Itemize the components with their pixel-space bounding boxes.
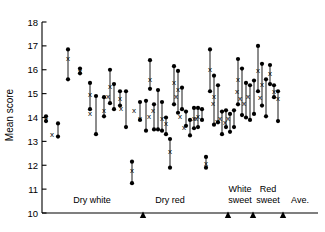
low-point [164, 132, 168, 136]
y-axis-label: Mean score [4, 88, 15, 141]
group-label-red-sweet-line1: Red [260, 184, 277, 194]
low-point [188, 133, 192, 137]
high-point [88, 81, 92, 85]
mid-x-marker: x [226, 114, 230, 123]
high-point [184, 109, 188, 113]
high-point [200, 107, 204, 111]
low-point [220, 132, 224, 136]
low-point [180, 107, 184, 111]
low-point [108, 101, 112, 105]
high-point [256, 44, 260, 48]
low-point [66, 77, 70, 81]
low-point [196, 125, 200, 129]
low-point [240, 113, 244, 117]
mid-x-marker: x [164, 119, 168, 128]
high-point [56, 121, 60, 125]
mean-score-scatter-chart: Mean score 101112131415161718 xxxxxxxxxx… [0, 0, 325, 232]
high-point [94, 94, 98, 98]
high-point [260, 62, 264, 66]
mid-x-marker: x [66, 54, 70, 63]
mid-x-marker: x [194, 114, 198, 123]
high-point [144, 99, 148, 103]
high-point [268, 63, 272, 67]
high-point [138, 100, 142, 104]
y-tick-label: 18 [27, 17, 38, 28]
low-point [276, 119, 280, 123]
y-tick-label: 16 [27, 64, 38, 75]
y-tick-label: 12 [27, 160, 38, 171]
low-point [252, 112, 256, 116]
mid-x-marker: x [44, 115, 48, 124]
high-point [156, 88, 160, 92]
low-point [192, 126, 196, 130]
high-point [112, 82, 116, 86]
mid-x-marker: x [260, 80, 264, 89]
high-point [108, 68, 112, 72]
high-point [168, 137, 172, 141]
high-point [176, 69, 180, 73]
group-label-red-sweet-line2: sweet [256, 195, 280, 205]
high-point [236, 57, 240, 61]
high-point [180, 86, 184, 90]
mid-x-marker: x [119, 104, 123, 113]
high-point [124, 89, 128, 93]
low-point [200, 118, 204, 122]
mid-x-marker: x [258, 93, 262, 102]
high-point [244, 81, 248, 85]
mid-x-marker: x [208, 65, 212, 74]
chart-container: Mean score 101112131415161718 xxxxxxxxxx… [0, 0, 325, 232]
data-item: x [164, 115, 168, 136]
mid-x-marker: x [174, 92, 178, 101]
high-point [240, 66, 244, 70]
mid-x-marker: x [218, 114, 222, 123]
low-point [172, 102, 176, 106]
mid-x-marker: x [88, 90, 92, 99]
high-point [192, 106, 196, 110]
group-label-dry-white: Dry white [73, 195, 111, 205]
y-tick-label: 14 [27, 112, 38, 123]
y-tick-label: 11 [28, 184, 38, 195]
mid-x-marker: x [204, 159, 208, 168]
high-point [118, 89, 122, 93]
high-point [66, 47, 70, 51]
mid-x-marker: x [108, 82, 112, 91]
low-point [160, 129, 164, 133]
mid-x-marker: x [78, 67, 82, 76]
low-point [130, 181, 134, 185]
y-tick-label: 17 [27, 40, 38, 51]
y-tick-label: 10 [27, 208, 38, 219]
mid-x-marker: x [50, 130, 54, 139]
high-point [248, 83, 252, 87]
high-point [216, 83, 220, 87]
high-point [196, 106, 200, 110]
mid-x-marker: x [138, 114, 142, 123]
low-point [112, 107, 116, 111]
high-point [212, 74, 216, 78]
data-item: x [268, 63, 272, 86]
high-point [160, 100, 164, 104]
low-point [152, 127, 156, 131]
group-label-white-sweet-line1: White [228, 184, 251, 194]
mid-x-marker: x [130, 166, 134, 175]
low-point [144, 129, 148, 133]
mid-x-marker: x [268, 69, 272, 78]
low-point [124, 125, 128, 129]
low-point [244, 115, 248, 119]
mid-x-marker: x [118, 94, 122, 103]
high-point [252, 78, 256, 82]
mid-x-marker: x [246, 92, 250, 101]
mid-x-marker: x [148, 75, 152, 84]
high-point [276, 89, 280, 93]
high-point [224, 108, 228, 112]
high-point [130, 160, 134, 164]
low-point [94, 132, 98, 136]
group-label-average: Ave. [291, 195, 309, 205]
mid-x-marker: x [276, 94, 280, 103]
mid-x-marker: x [178, 112, 182, 121]
group-label-white-sweet-line2: sweet [228, 195, 252, 205]
mid-x-marker: x [132, 106, 136, 115]
high-point [208, 47, 212, 51]
mid-x-marker: x [211, 99, 215, 108]
low-point [268, 82, 272, 86]
low-point [56, 135, 60, 139]
